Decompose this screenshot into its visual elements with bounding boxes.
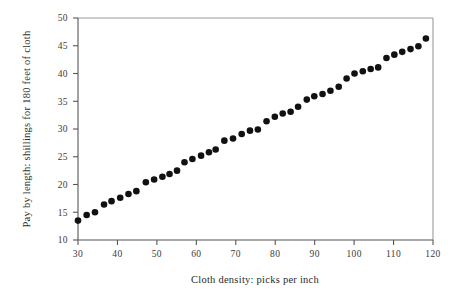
data-point [303, 96, 310, 103]
y-tick-label: 10 [58, 235, 68, 245]
data-point [375, 64, 382, 71]
data-point [311, 93, 318, 100]
data-point [295, 104, 302, 111]
data-point [151, 176, 158, 183]
y-tick-label: 15 [58, 208, 68, 218]
data-point [108, 198, 115, 205]
x-tick-label: 40 [112, 249, 122, 259]
data-point [279, 110, 286, 117]
data-point [272, 113, 279, 120]
data-point [181, 159, 188, 166]
data-point [101, 201, 108, 208]
data-point [125, 191, 132, 198]
data-point [221, 137, 228, 144]
data-point [212, 146, 219, 153]
x-axis-ticks: 30405060708090100110120 [73, 240, 441, 259]
x-tick-label: 90 [310, 249, 320, 259]
data-point [255, 126, 262, 133]
data-point [92, 209, 99, 216]
data-points-group [75, 35, 430, 224]
y-tick-label: 40 [58, 69, 68, 79]
data-point [399, 49, 406, 56]
data-point [367, 66, 374, 73]
scatter-plot-figure: 101520253035404550 304050607080901001101… [0, 0, 457, 300]
data-point [206, 149, 213, 156]
x-tick-label: 50 [152, 249, 162, 259]
x-tick-label: 70 [231, 249, 241, 259]
x-tick-label: 60 [191, 249, 201, 259]
y-tick-label: 50 [58, 13, 68, 23]
data-point [159, 173, 166, 180]
data-point [407, 46, 414, 53]
data-point [189, 156, 196, 163]
y-tick-label: 30 [58, 124, 68, 134]
data-point [343, 75, 350, 82]
data-point [247, 127, 254, 134]
data-point [287, 108, 294, 115]
data-point [117, 195, 124, 202]
data-point [319, 91, 326, 98]
y-tick-label: 20 [58, 180, 68, 190]
y-tick-label: 25 [58, 152, 68, 162]
x-tick-label: 80 [270, 249, 280, 259]
x-tick-label: 120 [425, 249, 440, 259]
y-tick-label: 45 [58, 41, 68, 51]
data-point [423, 35, 430, 42]
data-point [174, 167, 181, 174]
y-axis-title: Pay by length: shillings for 180 feet of… [21, 30, 32, 227]
data-point [143, 179, 150, 186]
data-point [230, 135, 237, 142]
chart-canvas: 101520253035404550 304050607080901001101… [0, 0, 457, 300]
x-axis-title: Cloth density: picks per inch [191, 274, 319, 285]
data-point [415, 43, 422, 50]
x-tick-label: 110 [386, 249, 401, 259]
data-point [359, 68, 366, 75]
y-tick-label: 35 [58, 97, 68, 107]
data-point [75, 217, 82, 224]
data-point [383, 55, 390, 62]
data-point [238, 131, 245, 138]
data-point [166, 171, 173, 178]
data-point [133, 188, 140, 195]
data-point [335, 84, 342, 91]
data-point [83, 212, 90, 219]
x-tick-label: 30 [73, 249, 83, 259]
data-point [327, 87, 334, 94]
y-axis-ticks: 101520253035404550 [58, 13, 78, 245]
data-point [351, 70, 358, 77]
data-point [263, 118, 270, 125]
x-tick-label: 100 [346, 249, 361, 259]
data-point [391, 51, 398, 58]
data-point [198, 152, 205, 159]
